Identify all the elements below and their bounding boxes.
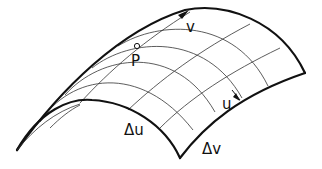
u-curve-1 bbox=[40, 83, 193, 130]
point-p-marker bbox=[134, 43, 139, 48]
parameter-grid bbox=[40, 12, 280, 130]
u-label: u bbox=[222, 95, 232, 113]
point-p-label: P bbox=[131, 52, 140, 70]
v-line-2 bbox=[128, 24, 250, 110]
u-curve-3 bbox=[92, 46, 242, 98]
v-label: v bbox=[186, 18, 195, 36]
u-direction-arrow bbox=[232, 90, 240, 101]
top-edge bbox=[17, 8, 305, 150]
surface-diagram: v P u Δu Δv bbox=[0, 0, 322, 169]
right-edge bbox=[180, 73, 305, 158]
u-arrowhead-icon bbox=[233, 93, 240, 101]
delta-v-label: Δv bbox=[202, 140, 221, 158]
delta-u-label: Δu bbox=[124, 121, 144, 139]
front-arch-edge bbox=[17, 100, 180, 158]
